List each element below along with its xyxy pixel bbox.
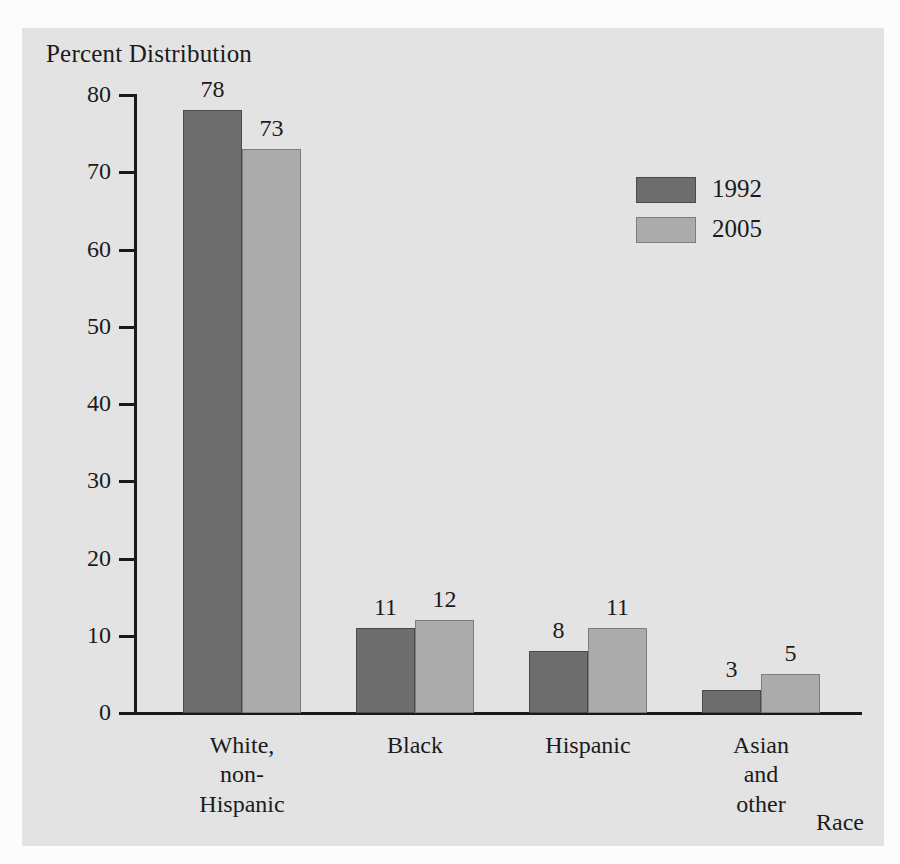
y-axis-tick-label: 70 — [43, 159, 111, 183]
bar-1992-asian-and-other — [702, 690, 761, 713]
legend-label-1992: 1992 — [712, 176, 762, 202]
y-axis-tick-label: 50 — [43, 314, 111, 338]
x-axis-title: Race — [816, 809, 864, 836]
x-axis-category-label: Black — [316, 731, 514, 760]
y-axis-tick-label-text: 40 — [51, 391, 111, 415]
y-axis-tick-label-text: 60 — [51, 237, 111, 261]
x-axis-category-label: White, non- Hispanic — [143, 731, 341, 819]
legend-swatch-2005 — [636, 217, 696, 243]
y-axis-tick — [119, 558, 135, 561]
bar-value-label: 78 — [169, 77, 256, 101]
x-axis-category-label: Hispanic — [489, 731, 687, 760]
legend-label-2005: 2005 — [712, 216, 762, 242]
y-axis-tick-label-text: 70 — [51, 159, 111, 183]
y-axis-tick — [119, 171, 135, 174]
y-axis-tick-label-text: 0 — [51, 700, 111, 724]
y-axis-tick — [119, 480, 135, 483]
y-axis-tick-label: 80 — [43, 82, 111, 106]
x-axis-category-label: Asian and other — [662, 731, 860, 819]
y-axis-tick-label-text: 10 — [51, 623, 111, 647]
y-axis-tick — [119, 326, 135, 329]
bar-2005-asian-and-other — [761, 674, 820, 713]
bar-1992-black — [356, 628, 415, 713]
y-axis-tick-label-text: 30 — [51, 468, 111, 492]
bar-value-label: 5 — [747, 641, 834, 665]
y-axis-tick-label-text: 50 — [51, 314, 111, 338]
y-axis-tick — [119, 249, 135, 252]
bar-2005-hispanic — [588, 628, 647, 713]
y-axis-tick — [119, 712, 135, 715]
y-axis-tick-label: 30 — [43, 468, 111, 492]
y-axis-tick-label: 20 — [43, 546, 111, 570]
y-axis-tick — [119, 635, 135, 638]
y-axis-tick-label: 0 — [43, 700, 111, 724]
chart-figure: Percent Distribution 01020304050607080 7… — [0, 0, 900, 864]
bar-2005-black — [415, 620, 474, 713]
bar-1992-white-non-hispanic — [183, 110, 242, 713]
y-axis-tick-label: 10 — [43, 623, 111, 647]
plot-area: Percent Distribution 01020304050607080 7… — [0, 0, 900, 864]
bar-value-label: 11 — [574, 595, 661, 619]
y-axis-tick-label: 60 — [43, 237, 111, 261]
y-axis-tick — [119, 94, 135, 97]
bar-2005-white-non-hispanic — [242, 149, 301, 713]
chart-title: Percent Distribution — [46, 40, 252, 68]
y-axis-tick-label: 40 — [43, 391, 111, 415]
bar-value-label: 73 — [228, 116, 315, 140]
y-axis-tick — [119, 403, 135, 406]
y-axis-tick-label-text: 20 — [51, 546, 111, 570]
legend-swatch-1992 — [636, 177, 696, 203]
bar-value-label: 12 — [401, 587, 488, 611]
y-axis-tick-label-text: 80 — [51, 82, 111, 106]
bar-1992-hispanic — [529, 651, 588, 713]
